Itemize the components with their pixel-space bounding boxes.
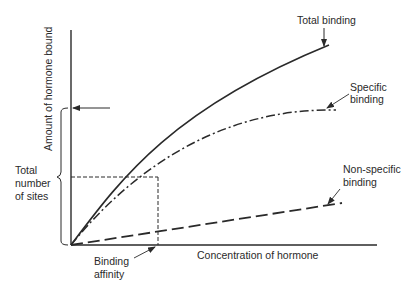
non-specific-binding-label: Non-specific binding (343, 163, 404, 188)
non-specific-binding-pointer (328, 189, 340, 204)
specific-binding-pointer (327, 94, 349, 108)
y-axis-label: Amount of hormone bound (42, 27, 54, 151)
non-specific-binding-line (71, 203, 342, 245)
x-axis-label: Concentration of hormone (197, 249, 319, 261)
total-sites-label: Total number of sites (15, 164, 54, 202)
total-sites-brace (57, 108, 68, 245)
binding-diagram: Amount of hormone bound Concentration of… (0, 0, 412, 294)
binding-affinity-label: Binding affinity (94, 255, 132, 280)
specific-binding-label: Specific binding (350, 81, 390, 105)
total-binding-label: Total binding (297, 14, 356, 26)
binding-affinity-pointer (134, 247, 155, 258)
total-binding-curve (71, 45, 329, 245)
